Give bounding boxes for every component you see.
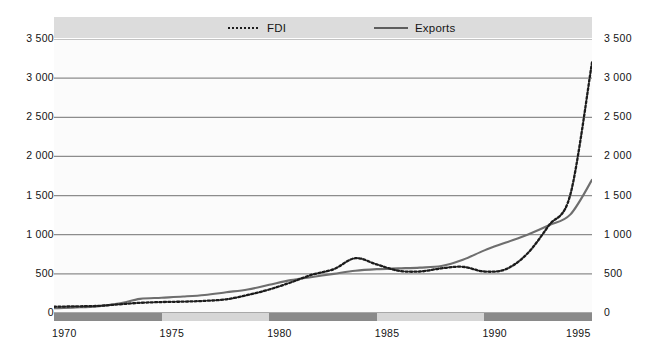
x-tick-label: 1990 [482, 328, 507, 339]
y-tick-label-right: 1 500 [604, 190, 632, 201]
x-axis-band [377, 313, 485, 321]
y-tick-label-left: 1 500 [26, 190, 54, 201]
solid-line-icon [374, 23, 408, 33]
x-tick-label: 1980 [267, 328, 292, 339]
legend-label-exports: Exports [415, 22, 455, 34]
y-tick-label-right: 3 000 [604, 72, 632, 83]
y-tick-label-right: 500 [604, 268, 622, 279]
x-axis-band [484, 313, 592, 321]
x-tick-label: 1975 [160, 328, 185, 339]
y-tick-label-left: 3 500 [26, 33, 54, 44]
legend-label-fdi: FDI [267, 22, 286, 34]
y-tick-label-left: 3 000 [26, 72, 54, 83]
y-tick-label-left: 2 000 [26, 150, 54, 161]
y-tick-label-right: 0 [604, 307, 610, 318]
plot-area [54, 39, 592, 313]
y-tick-label-left: 1 000 [26, 229, 54, 240]
y-tick-label-left: 500 [36, 268, 54, 279]
x-axis-band-bar [54, 313, 592, 321]
legend-item-fdi: FDI [226, 19, 286, 36]
y-tick-label-left: 2 500 [26, 111, 54, 122]
x-tick-label: 1970 [52, 328, 77, 339]
dotted-line-icon [226, 23, 260, 33]
x-axis-band [162, 313, 270, 321]
fdi-line [54, 62, 592, 306]
x-tick-label: 1985 [375, 328, 400, 339]
x-axis-band [54, 313, 162, 321]
y-tick-label-right: 1 000 [604, 229, 632, 240]
y-tick-label-right: 3 500 [604, 33, 632, 44]
exports-line [54, 180, 592, 308]
plot-canvas [54, 39, 592, 313]
chart-legend: FDI Exports [54, 17, 592, 38]
legend-item-exports: Exports [374, 19, 455, 36]
x-axis-band [269, 313, 377, 321]
chart-figure: FDI Exports 05001 0001 5002 0002 5003 00… [0, 0, 651, 353]
y-tick-label-right: 2 000 [604, 150, 632, 161]
x-tick-label: 1995 [566, 328, 591, 339]
y-tick-label-right: 2 500 [604, 111, 632, 122]
